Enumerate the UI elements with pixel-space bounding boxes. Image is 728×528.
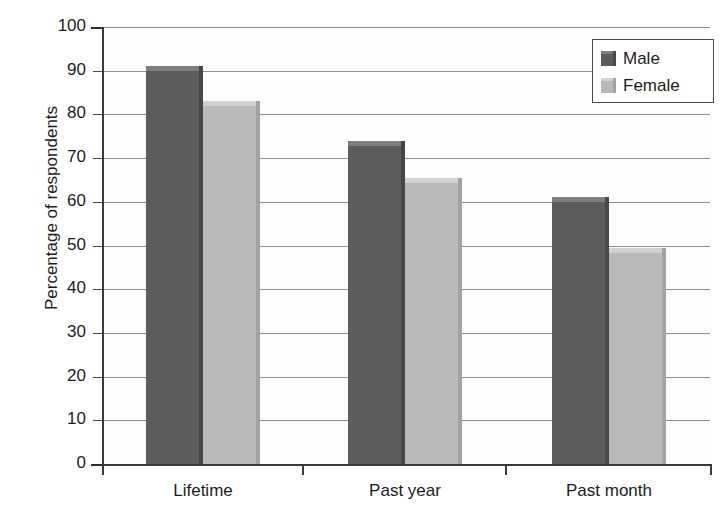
- y-tick: [91, 464, 102, 466]
- y-tick-label: 10: [0, 409, 86, 429]
- y-tick-label: 100: [0, 16, 86, 36]
- x-tick-label: Past year: [305, 481, 505, 501]
- bar-female-lifetime: [203, 101, 260, 464]
- legend-label-female: Female: [623, 76, 680, 96]
- y-tick: [93, 71, 102, 72]
- y-tick: [93, 158, 102, 159]
- x-tick-label: Past month: [509, 481, 709, 501]
- y-tick: [91, 27, 102, 29]
- y-tick-label: 30: [0, 322, 86, 342]
- y-axis-line: [102, 27, 104, 465]
- bar-female-past-year: [405, 178, 462, 464]
- y-tick-label: 20: [0, 366, 86, 386]
- x-tick: [302, 464, 304, 475]
- y-tick-label: 90: [0, 60, 86, 80]
- y-tick-label: 70: [0, 147, 86, 167]
- x-tick: [102, 464, 104, 475]
- y-tick: [93, 333, 102, 334]
- y-tick: [93, 420, 102, 421]
- legend: Male Female: [592, 39, 714, 103]
- y-tick: [93, 114, 102, 115]
- bar-male-past-year: [348, 141, 405, 464]
- y-tick: [93, 246, 102, 247]
- x-tick: [710, 464, 712, 475]
- y-tick-label: 80: [0, 103, 86, 123]
- x-tick-label: Lifetime: [103, 481, 303, 501]
- y-tick: [93, 202, 102, 203]
- gridline: [102, 27, 710, 28]
- legend-swatch-female-icon: [601, 78, 616, 93]
- bar-male-past-month: [552, 197, 609, 464]
- x-axis-line: [102, 464, 711, 466]
- bar-female-past-month: [609, 248, 666, 464]
- legend-swatch-male-icon: [601, 51, 616, 66]
- y-tick-label: 40: [0, 278, 86, 298]
- y-tick: [93, 377, 102, 378]
- x-tick: [505, 464, 507, 475]
- y-tick-label: 0: [0, 453, 86, 473]
- legend-label-male: Male: [623, 49, 660, 69]
- legend-item-male: Male: [601, 45, 713, 72]
- y-tick-label: 60: [0, 191, 86, 211]
- y-tick-label: 50: [0, 235, 86, 255]
- y-tick: [93, 289, 102, 290]
- bar-male-lifetime: [146, 66, 203, 464]
- legend-item-female: Female: [601, 72, 713, 99]
- bar-chart: Percentage of respondents 01020304050607…: [0, 0, 728, 528]
